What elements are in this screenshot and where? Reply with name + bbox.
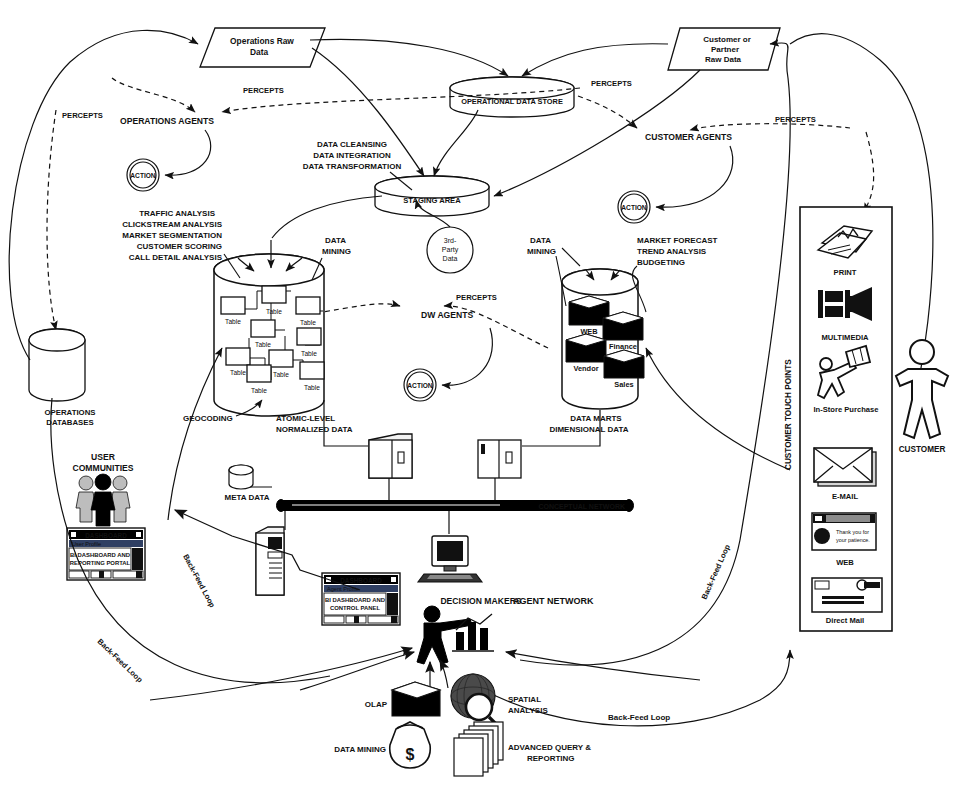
web-window-text-line1: Thank you for bbox=[836, 529, 869, 535]
data-mining-right-line1: DATA bbox=[530, 236, 551, 245]
mart-analytics-line2: TREND ANALYSIS bbox=[637, 247, 707, 256]
percepts-label-top: PERCEPTS bbox=[243, 86, 284, 95]
operations-agents-label: OPERATIONS AGENTS bbox=[120, 116, 214, 126]
atomic-line1: ATOMIC-LEVEL bbox=[276, 414, 335, 423]
backfeed-loop-label-4: Back-Feed Loop bbox=[608, 713, 670, 722]
table-label: Table bbox=[266, 308, 282, 315]
customer-agents-label: CUSTOMER AGENTS bbox=[645, 132, 732, 142]
dashboard-body-line1: BI DASHBOARD AND bbox=[325, 597, 385, 603]
operations-databases-label-line1: OPERATIONS bbox=[45, 408, 96, 417]
third-party-line2: Party bbox=[442, 246, 459, 254]
customer-raw-label-line2: Partner bbox=[711, 45, 739, 54]
third-party-line3: Data bbox=[443, 255, 458, 262]
customer-partner-raw-data-node: Customer or Partner Raw Data bbox=[668, 28, 780, 70]
mart-label: Sales bbox=[614, 380, 633, 389]
etl-label-line2: DATA INTEGRATION bbox=[313, 151, 391, 160]
staging-area-node: STAGING AREA bbox=[375, 176, 489, 216]
dollar-sign-icon: $ bbox=[406, 746, 415, 763]
dashboard-titlebar-label: DASHBOARD bbox=[340, 577, 382, 584]
dw-analytics-line4: CUSTOMER SCORING bbox=[137, 242, 222, 251]
advanced-query-line1: ADVANCED QUERY & bbox=[508, 743, 591, 752]
dw-action-label: ACTION bbox=[407, 382, 433, 389]
table-label: Table bbox=[300, 319, 316, 326]
table-label: Table bbox=[251, 387, 267, 394]
operations-raw-data-node: Operations Raw Data bbox=[200, 28, 325, 67]
operations-raw-data-label-line2: Data bbox=[250, 47, 268, 57]
touch-point-label: Direct Mail bbox=[826, 616, 864, 625]
table-box bbox=[297, 328, 321, 345]
data-marts-node: WEB Finance Vendor Sales bbox=[562, 269, 644, 409]
web-window-text-line2: your patience. bbox=[836, 537, 870, 543]
table-box bbox=[262, 286, 286, 303]
touch-point-label: WEB bbox=[836, 558, 854, 567]
operational-data-store-label: OPERATIONAL DATA STORE bbox=[461, 97, 563, 106]
dashboard-subtitle: User Profile bbox=[72, 541, 101, 547]
table-box bbox=[247, 365, 271, 382]
customer-touch-points-axis-label: CUSTOMER TOUCH POINTS bbox=[784, 359, 793, 470]
mart-label: Finance bbox=[609, 342, 637, 351]
touch-point-label: E-MAIL bbox=[832, 492, 859, 501]
server-marts bbox=[478, 440, 521, 478]
table-label: Table bbox=[225, 318, 241, 325]
table-label: Table bbox=[273, 371, 289, 378]
table-box bbox=[269, 350, 293, 367]
dw-analytics-line5: CALL DETAIL ANALYSIS bbox=[129, 253, 223, 262]
olap-label: OLAP bbox=[365, 700, 388, 709]
data-mining-tool-label: DATA MINING bbox=[334, 745, 386, 754]
dw-analytics-line1: TRAFFIC ANALYSIS bbox=[139, 209, 216, 218]
table-label: Table bbox=[304, 384, 320, 391]
operations-databases-label-line2: DATABASES bbox=[46, 418, 93, 427]
advanced-query-line2: REPORTING bbox=[527, 754, 575, 763]
mart-analytics-line1: MARKET FORECAST bbox=[637, 236, 718, 245]
dashboard-body-line2: CONTROL PANEL bbox=[330, 605, 381, 611]
table-box bbox=[296, 297, 320, 314]
table-box bbox=[221, 297, 245, 314]
agent-network-label: AGENT NETWORK bbox=[513, 596, 594, 606]
table-box bbox=[226, 348, 250, 365]
dashboard-body-line1: BI DASHBOARD AND bbox=[70, 552, 130, 558]
table-label: Table bbox=[230, 369, 246, 376]
spatial-analysis-line2: ANALYSIS bbox=[508, 706, 548, 715]
dw-analytics-line2: CLICKSTREAM ANALYSIS bbox=[122, 220, 223, 229]
user-communities-line1: USER bbox=[91, 452, 116, 462]
dw-agents-label: DW AGENTS bbox=[421, 310, 473, 320]
staging-area-label: STAGING AREA bbox=[403, 196, 461, 205]
table-label: Table bbox=[255, 341, 271, 348]
atomic-line2: NORMALIZED DATA bbox=[276, 425, 353, 434]
dashboard-subtitle: Agent Profile bbox=[327, 586, 359, 592]
marts-line1: DATA MARTS bbox=[570, 414, 622, 423]
customer-raw-label-line3: Raw Data bbox=[705, 55, 742, 64]
percepts-label-left: PERCEPTS bbox=[62, 111, 103, 120]
data-mining-left-line2: MINING bbox=[322, 247, 351, 256]
spatial-analysis-line1: SPATIAL bbox=[508, 695, 541, 704]
customer-action-label: ACTION bbox=[621, 204, 647, 211]
data-mining-right-line2: MINING bbox=[527, 247, 556, 256]
meta-data-label: META DATA bbox=[224, 493, 269, 502]
diagram-canvas: Operations Raw Data Customer or Partner … bbox=[0, 0, 969, 798]
dw-analytics-line3: MARKET SEGMENTATION bbox=[122, 231, 222, 240]
operations-action-label: ACTION bbox=[130, 172, 156, 179]
percepts-label-right: PERCEPTS bbox=[775, 115, 816, 124]
third-party-data-node: 3rd- Party Data bbox=[427, 227, 473, 273]
data-mining-left-line1: DATA bbox=[325, 236, 346, 245]
touch-point-label: PRINT bbox=[834, 268, 857, 277]
mart-analytics-line3: BUDGETING bbox=[637, 258, 685, 267]
mart-label: Vendor bbox=[573, 364, 598, 373]
info-icon: i bbox=[821, 531, 824, 542]
etl-label-line3: DATA TRANSFORMATION bbox=[303, 162, 402, 171]
percepts-label-dw-right: PERCEPTS bbox=[456, 293, 497, 302]
bi-dashboard-reporting-portal[interactable]: DASHBOARD User Profile BI DASHBOARD AND … bbox=[67, 528, 145, 580]
operational-data-store-node: OPERATIONAL DATA STORE bbox=[450, 77, 574, 117]
touch-point-label: In-Store Purchase bbox=[814, 405, 879, 414]
conceptual-network-bar[interactable]: CONCEPTUAL NETWORK bbox=[277, 500, 634, 512]
etl-label-line1: DATA CLEANSING bbox=[317, 140, 387, 149]
server-atomic bbox=[369, 434, 412, 478]
user-communities-line2: COMMUNITIES bbox=[72, 463, 133, 473]
dashboard-titlebar-label: DASHBOARD bbox=[85, 532, 127, 539]
table-label: Table bbox=[301, 350, 317, 357]
table-box bbox=[251, 320, 275, 337]
marts-line2: DIMENSIONAL DATA bbox=[549, 425, 628, 434]
third-party-line1: 3rd- bbox=[444, 237, 457, 244]
touch-point-multimedia: MULTIMEDIA bbox=[818, 287, 872, 342]
operations-raw-data-label-line1: Operations Raw bbox=[230, 36, 294, 46]
